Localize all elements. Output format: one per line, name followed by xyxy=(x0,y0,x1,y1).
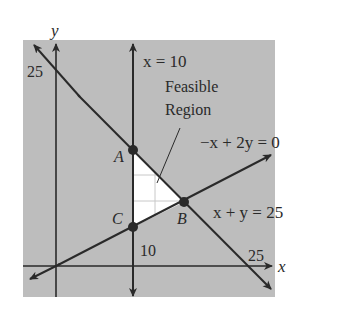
x-tick-25: 25 xyxy=(248,247,264,264)
x-tick-10: 10 xyxy=(140,242,156,259)
feasible-region-diagram: y x 25 10 25 x = 10 Feasible Region −x +… xyxy=(0,0,337,318)
x-axis-label: x xyxy=(277,257,286,276)
label-point-a: A xyxy=(113,148,124,165)
label-line-neg-x-plus-2y: −x + 2y = 0 xyxy=(200,133,280,152)
label-line-x-plus-y: x + y = 25 xyxy=(213,203,283,222)
label-point-b: B xyxy=(177,210,187,227)
label-point-c: C xyxy=(112,210,123,227)
y-tick-25: 25 xyxy=(27,63,43,80)
point-a xyxy=(128,145,138,155)
label-feasible: Feasible xyxy=(165,78,218,95)
y-axis-label: y xyxy=(49,21,59,40)
point-b xyxy=(179,197,189,207)
label-x-equals-10: x = 10 xyxy=(143,52,187,71)
point-c xyxy=(128,222,138,232)
label-region: Region xyxy=(165,101,211,119)
